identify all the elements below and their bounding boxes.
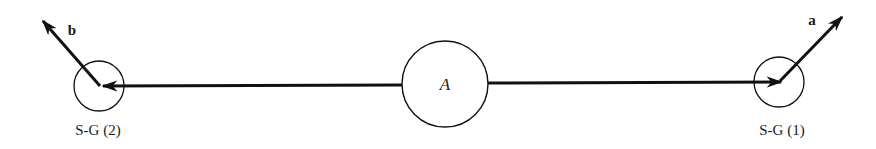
vector-a-label: a bbox=[808, 12, 816, 28]
diagram-canvas: A S-G (2) S-G (1) b a bbox=[0, 0, 876, 149]
center-node-a: A bbox=[402, 41, 488, 127]
connector-left bbox=[103, 85, 402, 86]
right-node-label: S-G (1) bbox=[759, 122, 804, 139]
connector-right bbox=[488, 82, 781, 83]
right-node-sg1: S-G (1) bbox=[754, 57, 805, 139]
vector-b: b bbox=[43, 21, 100, 86]
left-node-label: S-G (2) bbox=[75, 122, 120, 139]
center-node-label: A bbox=[439, 75, 451, 94]
left-node-sg2: S-G (2) bbox=[74, 61, 124, 139]
vector-b-label: b bbox=[68, 22, 76, 38]
vector-a: a bbox=[780, 12, 842, 81]
